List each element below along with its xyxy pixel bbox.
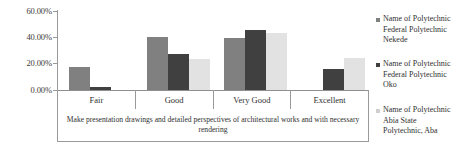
legend-swatch-icon xyxy=(376,109,380,113)
y-tick-label: 40.00% xyxy=(26,33,52,42)
chart-legend: Name of Polytechnic Federal Polytechnic … xyxy=(376,8,471,146)
y-tick-label: 20.00% xyxy=(26,59,52,68)
y-tick-mark xyxy=(53,11,57,12)
bar-chart: 60.00% 40.00% 20.00% 0.00% FairGoodVery … xyxy=(0,0,471,146)
bar xyxy=(344,58,365,91)
y-tick-mark xyxy=(53,37,57,38)
legend-label: Name of Polytechnic Abia State Polytechn… xyxy=(383,105,451,137)
legend-swatch-icon xyxy=(376,63,380,67)
bar xyxy=(245,30,266,90)
bar-group xyxy=(136,10,214,90)
plot-wrapper: 60.00% 40.00% 20.00% 0.00% FairGoodVery … xyxy=(0,0,372,146)
bar xyxy=(69,67,90,90)
y-tick-label: 0.00% xyxy=(31,86,52,95)
plot-area xyxy=(58,10,368,90)
x-axis-title: Make presentation drawings and detailed … xyxy=(64,115,362,135)
bar xyxy=(323,69,344,90)
x-axis-category-label: Good xyxy=(136,90,214,109)
bar-group xyxy=(213,10,291,90)
x-axis-category-label: Very Good xyxy=(214,90,292,109)
y-axis-labels: 60.00% 40.00% 20.00% 0.00% xyxy=(2,0,52,146)
bar xyxy=(147,37,168,90)
x-axis-category-band: FairGoodVery GoodExcellent xyxy=(57,90,369,109)
legend-entry[interactable]: Name of Polytechnic Federal Polytechnic … xyxy=(376,14,471,46)
bar xyxy=(168,54,189,90)
bar xyxy=(266,33,287,90)
legend-entry[interactable]: Name of Polytechnic Abia State Polytechn… xyxy=(376,105,471,137)
legend-swatch-icon xyxy=(376,18,380,22)
x-axis-title-band: Make presentation drawings and detailed … xyxy=(57,109,369,142)
bar-group xyxy=(58,10,136,90)
y-tick-mark xyxy=(53,63,57,64)
x-axis-category-label: Excellent xyxy=(291,90,368,109)
bar xyxy=(224,38,245,90)
legend-entry[interactable]: Name of Polytechnic Federal Polytechnic … xyxy=(376,59,471,91)
bar-group xyxy=(291,10,369,90)
x-axis-category-label: Fair xyxy=(58,90,136,109)
legend-label: Name of Polytechnic Federal Polytechnic … xyxy=(383,59,451,91)
legend-label: Name of Polytechnic Federal Polytechnic … xyxy=(383,14,451,46)
bar xyxy=(189,59,210,90)
y-tick-label: 60.00% xyxy=(26,7,52,16)
